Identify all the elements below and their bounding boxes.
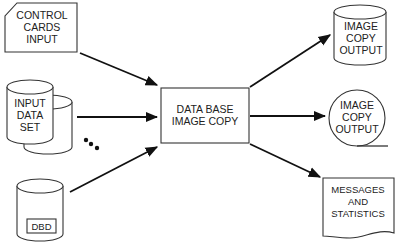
dbd-node: DBD [17, 179, 63, 241]
node-label-line: IMAGE [340, 99, 374, 111]
node-label-line: AND [348, 196, 368, 207]
node-label-line: OUTPUT [335, 123, 379, 135]
node-label-line: COPY [346, 32, 376, 44]
edge-control-cards-to-image-copy [80, 53, 157, 85]
ellipsis-dots-icon [84, 138, 99, 150]
messages-and-statistics-node: MESSAGES AND STATISTICS [323, 178, 394, 238]
edge-image-copy-to-disk-output [250, 35, 330, 87]
dot [89, 142, 93, 146]
node-label-line: INPUT [14, 97, 46, 109]
diagram-canvas: CONTROL CARDS INPUT INPUT DATA SET DBD D… [0, 0, 396, 245]
dot [95, 146, 99, 150]
control-cards-input-node: CONTROL CARDS INPUT [5, 3, 77, 52]
node-label-line: OUTPUT [339, 44, 383, 56]
node-label-line: COPY [342, 111, 372, 123]
node-label-line: CONTROL [16, 9, 67, 21]
node-label-line: IMAGE COPY [172, 115, 239, 127]
disk-top [334, 5, 386, 19]
node-label-line: CARDS [24, 21, 61, 33]
disk-top [7, 80, 53, 94]
node-label-line: STATISTICS [331, 208, 384, 219]
node-label-line: SET [20, 121, 41, 133]
image-copy-disk-output-node: IMAGE COPY OUTPUT [334, 5, 386, 65]
node-label-line: DATA [17, 109, 43, 121]
node-label-line: INPUT [26, 33, 58, 45]
node-label-line: IMAGE [344, 20, 378, 32]
node-label-line: DATA BASE [177, 103, 234, 115]
disk-top [17, 179, 63, 193]
image-copy-tape-output-node: IMAGE COPY OUTPUT [329, 90, 388, 146]
edge-image-copy-to-messages [250, 144, 320, 177]
input-data-set-node: INPUT DATA SET [7, 80, 72, 154]
edge-dbd-to-image-copy [70, 147, 157, 192]
dot [84, 138, 88, 142]
node-label-line: MESSAGES [331, 184, 384, 195]
node-label-line: DBD [31, 221, 51, 232]
data-base-image-copy-node: DATA BASE IMAGE COPY [161, 88, 249, 143]
